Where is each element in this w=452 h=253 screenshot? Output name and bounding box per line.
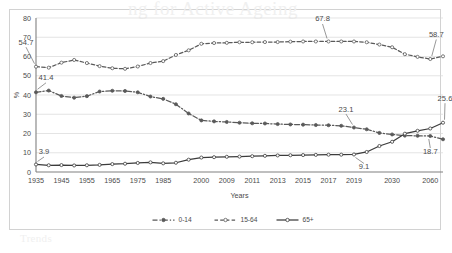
data-point [378, 144, 381, 147]
series-15-64 [34, 40, 444, 70]
data-point [98, 65, 101, 68]
legend-item-15-64[interactable]: 15-64 [215, 216, 258, 223]
legend-item-0-14[interactable]: 0-14 [153, 216, 193, 223]
data-point [213, 120, 216, 123]
y-tick-label: 20 [23, 129, 31, 138]
data-point [123, 162, 126, 165]
x-tick-label: 2009 [219, 176, 235, 185]
x-tick-label: 1985 [155, 176, 171, 185]
data-point [47, 89, 50, 92]
data-point [391, 140, 394, 143]
data-point [123, 89, 126, 92]
annotation-value: 58.7 [429, 30, 444, 39]
data-point [149, 61, 152, 64]
annotation-leader-line [432, 40, 437, 57]
data-point [162, 60, 165, 63]
data-point [111, 67, 114, 70]
x-tick-label: 2000 [193, 176, 209, 185]
x-tick-label: 2011 [244, 176, 259, 185]
data-point [73, 96, 76, 99]
data-point [136, 65, 139, 68]
legend-item-65plus[interactable]: 65+ [277, 216, 314, 223]
series-0-14 [34, 89, 444, 141]
data-point [441, 138, 444, 141]
series-65plus [34, 121, 444, 167]
data-point [187, 158, 190, 161]
data-point [327, 124, 330, 127]
x-tick-label: 1955 [79, 176, 95, 185]
data-point [302, 40, 305, 43]
data-point [200, 119, 203, 122]
annotation-value: 18.7 [423, 147, 438, 156]
x-tick-label: 2013 [270, 176, 286, 185]
x-tick-label: 2015 [295, 176, 311, 185]
data-point [85, 95, 88, 98]
data-point [60, 164, 63, 167]
y-tick-label: 60 [23, 52, 31, 61]
data-point [429, 57, 432, 60]
x-tick-label: 2017 [321, 176, 337, 185]
data-point [174, 161, 177, 164]
data-point [263, 122, 266, 125]
data-point [225, 155, 228, 158]
data-point [251, 155, 254, 158]
annotation-value: 67.8 [315, 14, 330, 23]
data-point [213, 156, 216, 159]
data-point [187, 49, 190, 52]
annotation-leader-line [445, 103, 446, 120]
data-point [73, 58, 76, 61]
data-point [162, 162, 165, 165]
data-point [34, 65, 37, 68]
data-point [340, 153, 343, 156]
data-point [85, 164, 88, 167]
legend-marker [224, 218, 227, 221]
data-point [251, 41, 254, 44]
data-point [47, 164, 50, 167]
data-point [441, 55, 444, 58]
data-point [403, 132, 406, 135]
data-point [289, 154, 292, 157]
data-point [378, 43, 381, 46]
chart-container: ng for Active Ageing Trends 010203040506… [0, 0, 452, 253]
x-tick-label: 2060 [422, 176, 438, 185]
annotation-value: 3.9 [39, 147, 50, 156]
data-point [403, 53, 406, 56]
data-point [391, 46, 394, 49]
annotation-leader-line [38, 157, 45, 162]
data-point [200, 156, 203, 159]
x-axis-ticks: 1935194519551965197519852000200920112013… [28, 176, 438, 185]
data-point [136, 161, 139, 164]
annotation-value: 23.1 [339, 105, 354, 114]
data-annotations: 54.741.43.967.858.723.118.79.125.6 [19, 14, 452, 171]
chart-legend[interactable]: 0-1415-6465+ [153, 216, 314, 223]
data-point [263, 154, 266, 157]
data-point [365, 128, 368, 131]
data-point [200, 42, 203, 45]
data-point [441, 121, 444, 124]
data-point [429, 134, 432, 137]
data-point [238, 121, 241, 124]
data-point [416, 129, 419, 132]
data-point [378, 131, 381, 134]
data-point [340, 40, 343, 43]
annotation-value: 9.1 [359, 162, 370, 171]
data-point [365, 150, 368, 153]
data-point [34, 163, 37, 166]
data-point [174, 53, 177, 56]
legend-marker [162, 218, 165, 221]
data-point [416, 55, 419, 58]
data-point [47, 66, 50, 69]
data-point [251, 122, 254, 125]
y-tick-label: 10 [23, 148, 31, 157]
x-tick-label: 1945 [53, 176, 69, 185]
data-point [416, 134, 419, 137]
data-point [225, 41, 228, 44]
data-point [289, 40, 292, 43]
data-point [149, 161, 152, 164]
data-point [276, 123, 279, 126]
x-tick-label: 2030 [384, 176, 400, 185]
data-point [314, 153, 317, 156]
x-tick-label: 1965 [104, 176, 120, 185]
data-point [174, 103, 177, 106]
data-point [340, 124, 343, 127]
